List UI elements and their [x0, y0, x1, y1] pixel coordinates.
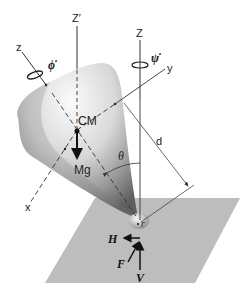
axis-dot: [64, 148, 66, 150]
friction-force-label: F: [116, 257, 125, 271]
spinning-top-diagram: d θ CM Mg ϕ̇ ψ̇ Z′ Z z y x r H F V: [0, 0, 251, 291]
z-body-label: z: [16, 41, 22, 53]
y-body-label: y: [167, 62, 173, 74]
horizontal-force-label: H: [107, 232, 118, 246]
z-prime-label: Z′: [72, 12, 81, 24]
contact-point-label: r: [141, 218, 145, 229]
phi-dot-label: ϕ̇: [48, 58, 57, 72]
psi-dot-label: ψ̇: [151, 51, 161, 65]
weight-label: Mg: [74, 163, 91, 177]
phi-dot-rotation-icon: [26, 69, 43, 80]
axis-dot: [45, 84, 47, 86]
contact-point: [137, 223, 139, 225]
cm-label: CM: [78, 114, 97, 128]
theta-label: θ: [118, 149, 124, 163]
axis-dot: [114, 103, 116, 105]
z-fixed-label: Z: [136, 27, 143, 39]
vertical-force-label: V: [136, 271, 145, 285]
x-body-label: x: [25, 201, 31, 213]
distance-label: d: [156, 135, 162, 147]
contact-tip: [129, 213, 149, 229]
